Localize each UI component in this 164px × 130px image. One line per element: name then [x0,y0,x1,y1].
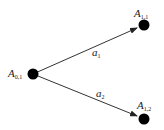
label-a11: A1,1 [134,8,148,20]
node-a01 [28,69,39,80]
edge-label-a2: a2 [96,88,105,100]
edge-a2 [33,74,137,116]
edge-label-a1: a1 [92,47,101,59]
label-a01: A0,1 [8,68,22,80]
edge-a1 [33,28,137,74]
node-a11 [139,20,150,31]
label-a12: A1,2 [137,100,151,112]
node-a12 [139,114,150,125]
